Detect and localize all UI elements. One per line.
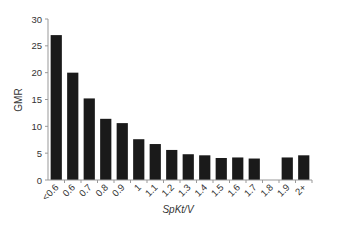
- y-tick-label: 20: [31, 67, 42, 78]
- bar: [282, 157, 293, 180]
- y-tick-label: 0: [37, 175, 42, 186]
- x-tick-label: 0.9: [110, 182, 127, 199]
- bar: [84, 98, 95, 180]
- x-tick-label: 1.9: [275, 182, 292, 199]
- x-tick-label: 0.7: [77, 182, 94, 199]
- x-tick-label: 2+: [293, 181, 309, 197]
- x-tick-label: 0.8: [93, 182, 110, 199]
- x-axis: <0.60.60.70.80.911.11.21.31.41.51.61.71.…: [40, 180, 312, 203]
- x-axis-title: SpKt/V: [162, 204, 194, 215]
- bar: [100, 119, 111, 180]
- y-axis-title: GMR: [13, 88, 24, 111]
- bar: [232, 157, 243, 180]
- bar: [183, 154, 194, 180]
- bar: [199, 155, 210, 180]
- x-tick-label: 1: [132, 182, 144, 194]
- y-tick-label: 15: [31, 94, 42, 105]
- y-tick-label: 25: [31, 40, 42, 51]
- x-tick-label: 1.1: [143, 182, 160, 199]
- bar: [216, 158, 227, 180]
- bar: [249, 159, 260, 180]
- y-tick-label: 10: [31, 121, 42, 132]
- x-tick-label: 1.3: [176, 182, 193, 199]
- x-tick-label: 1.5: [209, 182, 226, 199]
- x-tick-label: 1.4: [192, 182, 209, 199]
- bar-chart: 051015202530 <0.60.60.70.80.911.11.21.31…: [0, 0, 345, 226]
- x-tick-label: 1.2: [159, 182, 176, 199]
- bar: [67, 73, 78, 180]
- bar: [117, 123, 128, 180]
- bar: [166, 150, 177, 180]
- x-tick-label: 0.6: [60, 182, 77, 199]
- bar: [51, 35, 62, 180]
- x-tick-label: 1.6: [225, 182, 242, 199]
- y-axis: 051015202530: [31, 14, 48, 186]
- y-tick-label: 5: [37, 148, 42, 159]
- x-tick-label: <0.6: [40, 182, 61, 203]
- bar: [298, 155, 309, 180]
- x-tick-label: 1.8: [258, 182, 275, 199]
- bar: [150, 144, 161, 180]
- bar: [133, 139, 144, 180]
- bars-group: [51, 35, 310, 180]
- x-tick-label: 1.7: [242, 182, 259, 199]
- y-tick-label: 30: [31, 14, 42, 25]
